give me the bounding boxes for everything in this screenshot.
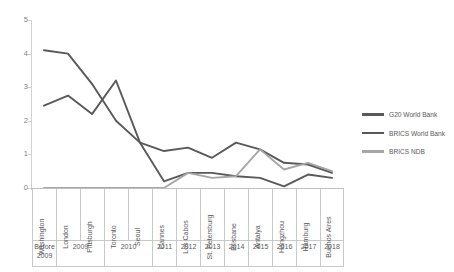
x-axis-year-cell: 2018 [320, 241, 344, 267]
x-axis-city-cell: Washington [32, 189, 56, 241]
x-axis-year-label: 2018 [324, 243, 340, 252]
x-axis-year-cell: Before 2009 [32, 241, 56, 267]
x-axis-year-label: 2010 [121, 243, 137, 252]
x-axis-year-cell: 2014 [224, 241, 248, 267]
x-axis-city-cell: Toronto [104, 189, 128, 241]
x-axis-year-label: 2011 [157, 243, 172, 252]
series-line [44, 80, 332, 172]
x-axis-year-cell: 2015 [248, 241, 272, 267]
x-axis-year-cell: 2011 [152, 241, 176, 267]
x-axis-year-row: Before 200920092010201120122013201420152… [32, 241, 344, 267]
x-axis-city-cell: Seoul [128, 189, 152, 241]
y-tick-mark [28, 87, 31, 88]
x-axis-year-label: 2016 [277, 243, 293, 252]
legend-item[interactable]: BRICS World Bank [362, 129, 454, 138]
x-axis: WashingtonLondonPittsburghTorontoSeoulCa… [32, 189, 344, 267]
x-axis-city-cell: St. Petersburg [200, 189, 224, 241]
series-paths [32, 20, 344, 188]
plot-area [32, 20, 344, 188]
legend-label: BRICS NDB [389, 148, 425, 155]
series-line [44, 149, 332, 188]
x-axis-city-cell: Brisbane [224, 189, 248, 241]
x-axis-year-cell: 2016 [272, 241, 296, 267]
x-axis-year-label: 2014 [229, 243, 245, 252]
series-line [44, 50, 332, 186]
x-axis-year-cell: 2010 [104, 241, 152, 267]
x-axis-year-label: 2017 [301, 243, 317, 252]
legend-line-icon [362, 113, 384, 115]
x-axis-year-label: 2015 [253, 243, 269, 252]
x-axis-city-row: WashingtonLondonPittsburghTorontoSeoulCa… [32, 189, 344, 241]
x-axis-year-label: Before 2009 [33, 243, 56, 260]
x-axis-city-cell: Antalya [248, 189, 272, 241]
plot-wrapper: 012345 WashingtonLondonPittsburghToronto… [0, 0, 454, 272]
x-axis-year-cell: 2013 [200, 241, 224, 267]
legend-label: G20 World Bank [389, 111, 437, 118]
legend-line-icon [362, 132, 384, 134]
legend-item[interactable]: BRICS NDB [362, 147, 454, 156]
y-tick-mark [28, 154, 31, 155]
x-axis-year-cell: 2009 [56, 241, 104, 267]
y-tick-mark [28, 20, 31, 21]
x-axis-year-label: 2012 [181, 243, 197, 252]
x-axis-city-cell: Los Cabos [176, 189, 200, 241]
chart-legend: G20 World BankBRICS World BankBRICS NDB [362, 110, 454, 166]
legend-item[interactable]: G20 World Bank [362, 110, 454, 119]
x-axis-city-cell: Cannes [152, 189, 176, 241]
x-axis-city-cell: London [56, 189, 80, 241]
x-axis-city-cell: Hamburg [296, 189, 320, 241]
x-axis-year-label: 2013 [205, 243, 221, 252]
y-tick-mark [28, 54, 31, 55]
legend-label: BRICS World Bank [389, 130, 445, 137]
x-axis-year-cell: 2017 [296, 241, 320, 267]
line-chart: 012345 WashingtonLondonPittsburghToronto… [0, 0, 454, 272]
x-axis-year-cell: 2012 [176, 241, 200, 267]
x-axis-year-label: 2009 [73, 243, 89, 252]
y-axis-tick-labels: 012345 [12, 16, 28, 192]
x-axis-city-cell: Pittsburgh [80, 189, 104, 241]
x-axis-city-cell: Buenos Aires [320, 189, 344, 241]
y-tick-mark [28, 121, 31, 122]
legend-line-icon [362, 150, 384, 152]
x-axis-city-cell: Hangzhou [272, 189, 296, 241]
